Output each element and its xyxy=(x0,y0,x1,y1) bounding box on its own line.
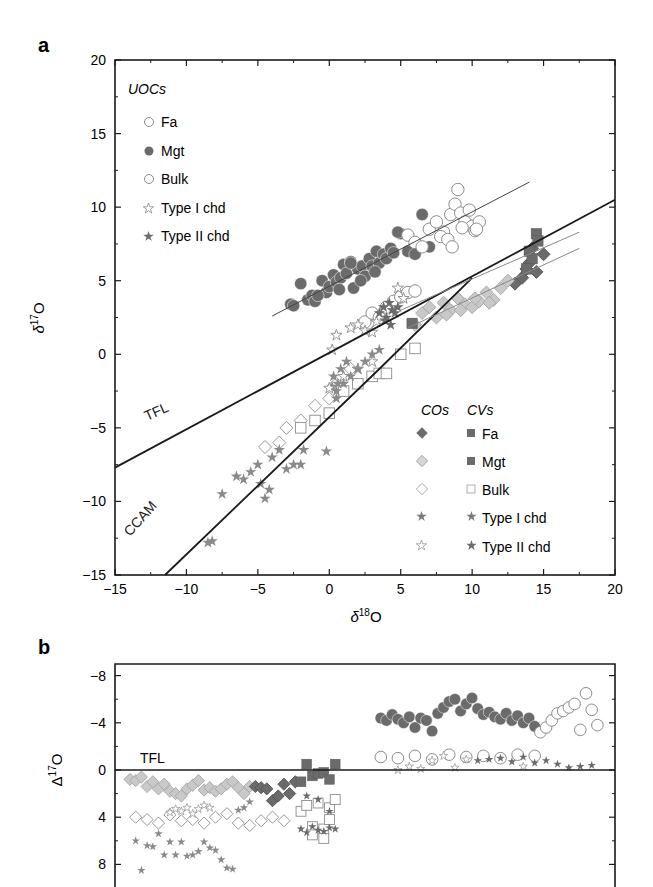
legend-filled-square-icon xyxy=(467,457,475,465)
data-point xyxy=(519,762,528,770)
data-point xyxy=(295,423,306,434)
legend-uoc-mgt-label: Mgt xyxy=(161,143,184,159)
x-tick-label: 20 xyxy=(607,581,623,597)
data-point xyxy=(245,797,254,805)
data-point xyxy=(470,223,482,235)
data-point xyxy=(456,222,468,234)
data-point xyxy=(296,777,306,787)
data-point xyxy=(175,815,187,827)
legend-filled-star-icon xyxy=(143,231,153,241)
data-point xyxy=(325,775,335,785)
data-point xyxy=(137,866,146,874)
data-point xyxy=(280,421,293,434)
x-tick-label: 10 xyxy=(464,581,480,597)
y-tick-label: 10 xyxy=(90,199,106,215)
data-point xyxy=(410,343,421,354)
data-point xyxy=(466,692,478,704)
legend-uocs: UOCs Fa Mgt Bulk Type I chd Type II chd xyxy=(128,81,229,244)
tfl-line-label: TFL xyxy=(142,399,171,424)
data-point xyxy=(130,811,142,823)
data-point xyxy=(542,756,551,764)
data-point xyxy=(381,368,392,379)
panel-b-y-axis-title: Δ17O xyxy=(47,754,65,787)
data-point xyxy=(409,750,421,762)
data-point xyxy=(587,761,596,769)
figure: a b −15−10−505101520−15−10−505101520 TFL… xyxy=(0,0,653,887)
legend-cv-bulk-label: Bulk xyxy=(482,482,510,498)
y-tick-label: −10 xyxy=(82,493,106,509)
data-point xyxy=(198,817,210,829)
x-tick-label: −10 xyxy=(175,581,199,597)
data-point xyxy=(331,329,342,340)
y-tick-label: −15 xyxy=(82,567,106,583)
data-point xyxy=(421,715,433,727)
data-point xyxy=(580,688,592,700)
data-point xyxy=(141,813,153,825)
data-point xyxy=(310,415,321,426)
panel-b-label: b xyxy=(38,636,50,658)
data-point xyxy=(244,819,256,831)
data-point xyxy=(569,698,581,710)
data-point xyxy=(426,725,438,737)
panel-b-chart: 840−4−8 TFL Δ17O xyxy=(47,664,615,887)
legend-cos-cvs: COs CVs Fa Mgt Bulk Type I chd Type II c… xyxy=(416,402,550,555)
data-point xyxy=(231,470,242,481)
data-point xyxy=(278,815,290,827)
x-tick-label: −5 xyxy=(250,581,266,597)
data-point xyxy=(312,289,324,301)
legend-uoc-type1-label: Type I chd xyxy=(161,200,226,216)
data-point xyxy=(449,693,461,705)
data-point xyxy=(409,285,421,297)
y-tick-label: −5 xyxy=(90,420,106,436)
data-point xyxy=(217,855,226,863)
data-point xyxy=(266,811,278,823)
legend-filled-star-icon xyxy=(466,540,476,550)
x-axis-title: δ18O xyxy=(350,607,381,625)
data-point xyxy=(405,762,414,770)
legend-open-square-icon xyxy=(467,485,475,493)
data-point xyxy=(240,803,249,811)
ccam-line-label: CCAM xyxy=(120,498,159,539)
y-tick-label: 0 xyxy=(98,762,106,778)
legend-cos-title: COs xyxy=(421,402,449,418)
data-point xyxy=(553,760,562,768)
data-point xyxy=(131,836,140,844)
y-tick-label: 0 xyxy=(98,346,106,362)
legend-open-star-icon xyxy=(416,540,426,550)
data-point xyxy=(171,850,180,858)
legend-filled-star-icon xyxy=(416,511,426,521)
data-point xyxy=(252,459,263,470)
data-point xyxy=(375,751,387,763)
data-point xyxy=(416,241,428,253)
data-point xyxy=(446,241,458,253)
x-tick-label: 15 xyxy=(536,581,552,597)
x-tick-label: 5 xyxy=(397,581,405,597)
data-point xyxy=(325,815,335,825)
data-point xyxy=(200,837,209,845)
legend-uoc-fa-label: Fa xyxy=(161,114,178,130)
data-point xyxy=(255,815,267,827)
data-point xyxy=(152,817,164,829)
legend-cv-mgt-label: Mgt xyxy=(482,454,505,470)
data-point xyxy=(302,791,311,799)
data-point xyxy=(216,488,227,499)
data-point xyxy=(160,850,169,858)
panel-a-label: a xyxy=(38,34,50,56)
y-tick-label: 20 xyxy=(90,52,106,68)
y-tick-label: 15 xyxy=(90,126,106,142)
data-point xyxy=(333,283,345,295)
data-point xyxy=(302,759,312,769)
data-point xyxy=(266,451,277,462)
data-point xyxy=(527,253,538,264)
data-point xyxy=(586,704,598,716)
legend-filled-circle-icon xyxy=(145,147,154,156)
legend-filled-diamond-icon xyxy=(416,427,427,438)
panel-b-axis-ticks: 840−4−8 xyxy=(90,668,615,887)
panel-b-plot-frame xyxy=(115,664,615,887)
y-tick-label: 8 xyxy=(98,856,106,872)
data-point xyxy=(143,841,152,849)
y-axis-title: δ17O xyxy=(29,302,47,333)
x-tick-label: 0 xyxy=(325,581,333,597)
data-point xyxy=(452,183,464,195)
ccam-line xyxy=(165,278,472,575)
